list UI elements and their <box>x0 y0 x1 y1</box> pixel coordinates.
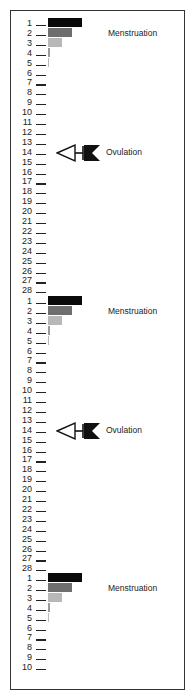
menstrual-flow-bar <box>48 48 50 57</box>
day-tick <box>36 65 46 66</box>
day-tick <box>36 560 46 561</box>
day-tick <box>36 253 46 254</box>
menstrual-flow-bar <box>48 573 82 582</box>
day-number: 11 <box>12 117 32 127</box>
day-tick <box>36 669 46 670</box>
day-number: 27 <box>12 553 32 563</box>
day-number: 3 <box>12 38 32 48</box>
day-number: 14 <box>12 425 32 435</box>
day-tick <box>36 174 46 175</box>
day-tick <box>36 590 46 591</box>
day-number: 18 <box>12 186 32 196</box>
day-tick <box>36 282 46 283</box>
day-tick <box>36 491 46 492</box>
day-number: 23 <box>12 514 32 524</box>
day-number: 1 <box>12 573 32 583</box>
day-number: 5 <box>12 613 32 623</box>
day-tick <box>36 323 46 324</box>
day-number: 20 <box>12 484 32 494</box>
day-tick <box>36 223 46 224</box>
day-number: 6 <box>12 623 32 633</box>
day-marker: 10 <box>14 663 54 673</box>
day-tick <box>36 501 46 502</box>
day-tick <box>36 134 46 135</box>
day-number: 10 <box>12 662 32 672</box>
ovulation-arrow-icon <box>56 143 102 163</box>
day-tick <box>36 659 46 660</box>
day-tick <box>36 75 46 76</box>
menstrual-flow-bar <box>48 326 50 335</box>
day-tick <box>36 442 46 443</box>
day-tick <box>36 452 46 453</box>
menstrual-flow-bar <box>48 58 49 67</box>
day-number: 19 <box>12 196 32 206</box>
day-number: 16 <box>12 445 32 455</box>
day-number: 22 <box>12 226 32 236</box>
day-number: 8 <box>12 365 32 375</box>
day-tick <box>36 154 46 155</box>
day-number: 2 <box>12 306 32 316</box>
day-tick <box>36 114 46 115</box>
day-tick <box>36 649 46 650</box>
day-number: 26 <box>12 266 32 276</box>
day-number: 1 <box>12 18 32 28</box>
day-tick <box>36 461 46 462</box>
day-number: 14 <box>12 147 32 157</box>
day-number: 10 <box>12 385 32 395</box>
day-number: 15 <box>12 157 32 167</box>
day-tick <box>36 183 46 184</box>
day-number: 3 <box>12 593 32 603</box>
day-number: 25 <box>12 256 32 266</box>
menstrual-flow-bar <box>48 603 50 612</box>
day-tick <box>36 233 46 234</box>
menstrual-flow-bar <box>48 336 49 345</box>
day-number: 20 <box>12 206 32 216</box>
day-number: 7 <box>12 77 32 87</box>
day-tick <box>36 213 46 214</box>
day-number: 2 <box>12 28 32 38</box>
day-number: 17 <box>12 454 32 464</box>
day-tick <box>36 84 46 85</box>
day-number: 18 <box>12 464 32 474</box>
menstruation-label: Menstruation <box>108 583 157 593</box>
day-tick <box>36 343 46 344</box>
ovulation-label: Ovulation <box>106 425 142 435</box>
day-tick <box>36 372 46 373</box>
day-number: 21 <box>12 494 32 504</box>
day-number: 24 <box>12 524 32 534</box>
menstrual-flow-bar <box>48 613 49 622</box>
day-tick <box>36 610 46 611</box>
day-tick <box>36 35 46 36</box>
day-tick <box>36 55 46 56</box>
day-number: 9 <box>12 97 32 107</box>
day-number: 26 <box>12 544 32 554</box>
day-number: 4 <box>12 48 32 58</box>
day-number: 5 <box>12 58 32 68</box>
day-tick <box>36 471 46 472</box>
day-tick <box>36 303 46 304</box>
day-tick <box>36 45 46 46</box>
day-tick <box>36 273 46 274</box>
day-tick <box>36 333 46 334</box>
day-number: 6 <box>12 346 32 356</box>
day-tick <box>36 193 46 194</box>
ovulation-label: Ovulation <box>106 147 142 157</box>
day-number: 28 <box>12 563 32 573</box>
day-tick <box>36 481 46 482</box>
day-number: 9 <box>12 375 32 385</box>
day-number: 22 <box>12 504 32 514</box>
menstrual-flow-bar <box>48 28 72 37</box>
day-number: 17 <box>12 176 32 186</box>
day-tick <box>36 104 46 105</box>
day-number: 4 <box>12 326 32 336</box>
menstruation-label: Menstruation <box>108 306 157 316</box>
day-number: 13 <box>12 415 32 425</box>
menstrual-flow-bar <box>48 593 62 602</box>
day-number: 21 <box>12 216 32 226</box>
day-number: 3 <box>12 316 32 326</box>
day-number: 16 <box>12 167 32 177</box>
day-number: 7 <box>12 355 32 365</box>
day-number: 9 <box>12 652 32 662</box>
day-tick <box>36 630 46 631</box>
day-tick <box>36 292 46 293</box>
